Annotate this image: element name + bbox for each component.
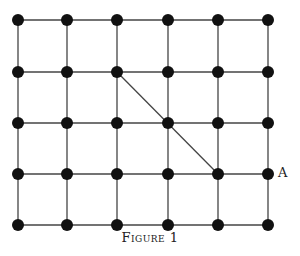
grid-node xyxy=(61,117,73,129)
grid-diagram xyxy=(0,0,300,256)
grid-node xyxy=(61,14,73,26)
grid-node xyxy=(12,14,24,26)
grid-node xyxy=(212,168,224,180)
grid-node xyxy=(212,117,224,129)
grid-node xyxy=(111,14,123,26)
point-label-a: A xyxy=(278,165,287,180)
grid-node xyxy=(111,117,123,129)
grid-node xyxy=(162,14,174,26)
grid-node xyxy=(12,66,24,78)
grid-node xyxy=(262,14,274,26)
grid-node xyxy=(162,66,174,78)
grid-node xyxy=(12,117,24,129)
grid-node xyxy=(262,168,274,180)
grid-node xyxy=(262,66,274,78)
grid-node xyxy=(61,168,73,180)
grid-node xyxy=(212,14,224,26)
grid-node xyxy=(262,117,274,129)
grid-node xyxy=(162,168,174,180)
grid-node xyxy=(162,117,174,129)
grid-node xyxy=(61,66,73,78)
grid-node xyxy=(111,168,123,180)
grid-node xyxy=(12,168,24,180)
figure-caption: Figure 1 xyxy=(0,230,300,245)
grid-node xyxy=(212,66,224,78)
grid-node xyxy=(111,66,123,78)
